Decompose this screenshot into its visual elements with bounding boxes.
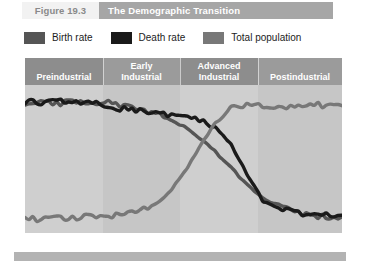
legend-swatch-icon: [24, 32, 45, 44]
legend-swatch-icon: [203, 32, 224, 44]
phase-label-band: PreindustrialEarly IndustrialAdvanced In…: [25, 58, 342, 85]
series-line-death-rate: [25, 99, 342, 217]
legend-label: Birth rate: [52, 32, 93, 44]
phase-label-advanced-industrial: Advanced Industrial: [180, 58, 258, 85]
bottom-rule: [14, 252, 346, 261]
chart-legend: Birth rate Death rate Total population: [24, 31, 344, 45]
legend-item-total-population: Total population: [203, 32, 301, 44]
phase-divider: [103, 58, 104, 85]
legend-item-birth-rate: Birth rate: [24, 32, 93, 44]
series-line-birth-rate: [25, 100, 342, 219]
plot-lines: [25, 85, 342, 233]
figure-root: Figure 19.3 The Demographic Transition B…: [0, 0, 365, 276]
figure-header: Figure 19.3 The Demographic Transition: [22, 2, 333, 19]
phase-label-preindustrial: Preindustrial: [25, 58, 103, 85]
legend-swatch-icon: [111, 32, 132, 44]
phase-label-postindustrial: Postindustrial: [258, 58, 342, 85]
series-line-total-population: [25, 102, 342, 221]
chart-panel: PreindustrialEarly IndustrialAdvanced In…: [25, 58, 342, 233]
legend-label: Death rate: [139, 32, 186, 44]
legend-label: Total population: [231, 32, 301, 44]
legend-item-death-rate: Death rate: [111, 32, 186, 44]
phase-divider: [258, 58, 259, 85]
figure-number-label: Figure 19.3: [22, 2, 99, 19]
phase-divider: [180, 58, 181, 85]
plot-area: [25, 85, 342, 233]
figure-title: The Demographic Transition: [99, 2, 333, 19]
phase-label-early-industrial: Early Industrial: [103, 58, 180, 85]
